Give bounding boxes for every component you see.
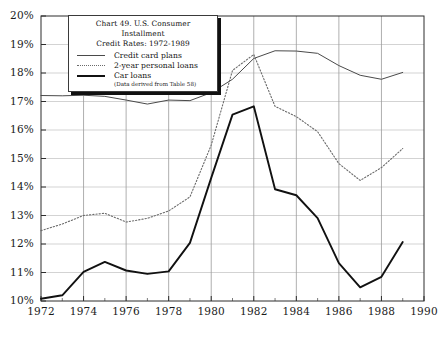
y-axis-tick-label: 20% [0,9,34,21]
legend-line-sample-icon [76,50,106,60]
legend-entry: Car loans [74,70,212,80]
y-axis-tick-label: 12% [0,237,34,249]
x-axis-tick-label: 1982 [232,305,276,317]
chart-plot-area [0,0,440,337]
legend-entry-label: Car loans [106,71,151,80]
y-axis-tick-label: 14% [0,180,34,192]
y-axis-tick-label: 17% [0,95,34,107]
x-axis-tick-label: 1978 [147,305,191,317]
legend-line-sample-icon [76,60,106,70]
x-axis-tick-label: 1990 [402,305,440,317]
x-axis-tick-label: 1974 [62,305,106,317]
x-axis-tick-label: 1972 [19,305,63,317]
y-axis-tick-label: 19% [0,38,34,50]
y-axis-tick-label: 15% [0,152,34,164]
series-line-2 [41,106,403,298]
legend-title-line-1: Chart 49. U.S. Consumer Installment [74,19,212,39]
legend: Chart 49. U.S. Consumer Installment Cred… [68,15,218,92]
y-axis-tick-label: 16% [0,123,34,135]
legend-entry-label: Credit card plans [106,51,182,60]
y-axis-tick-label: 13% [0,209,34,221]
x-axis-tick-label: 1976 [104,305,148,317]
legend-line-sample-icon [76,70,106,80]
y-axis-tick-label: 18% [0,66,34,78]
x-axis-tick-label: 1988 [359,305,403,317]
legend-entries: Credit card plans2-year personal loansCa… [74,50,212,80]
legend-source-note: (Data derived from Table 58) [74,81,212,87]
x-axis-tick-label: 1984 [274,305,318,317]
legend-entry-label: 2-year personal loans [106,61,198,70]
y-axis-tick-label: 11% [0,266,34,278]
chart-container: 10%11%12%13%14%15%16%17%18%19%20% 197219… [0,0,440,337]
legend-entry: Credit card plans [74,50,212,60]
x-axis-tick-label: 1986 [317,305,361,317]
x-axis-tick-label: 1980 [189,305,233,317]
legend-title-line-2: Credit Rates: 1972-1989 [74,39,212,49]
legend-entry: 2-year personal loans [74,60,212,70]
